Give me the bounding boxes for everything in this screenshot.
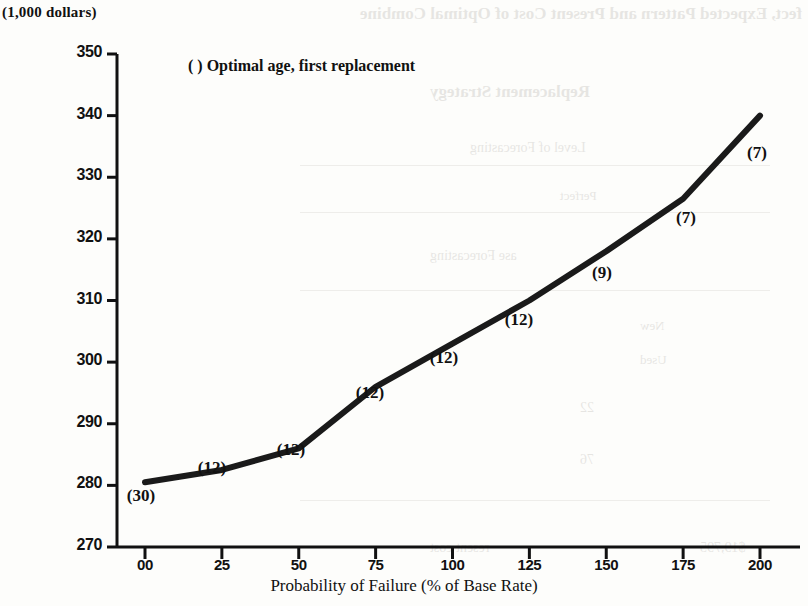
x-tick-label: 50: [269, 556, 329, 573]
point-annotation: (12): [342, 383, 398, 403]
x-tick-label: 00: [115, 556, 175, 573]
y-tick-label: 320: [40, 228, 102, 246]
point-annotation: (7): [658, 208, 714, 228]
y-tick-label: 300: [40, 351, 102, 369]
x-tick-label: 200: [730, 556, 790, 573]
line-chart-plot: [0, 0, 808, 606]
x-axis-title: Probability of Failure (% of Base Rate): [0, 576, 808, 596]
point-annotation: (30): [113, 486, 169, 506]
point-annotation: (12): [184, 458, 240, 478]
y-tick-label: 310: [40, 290, 102, 308]
y-tick-label: 270: [40, 536, 102, 554]
point-annotation: (7): [729, 143, 785, 163]
point-annotation: (9): [574, 263, 630, 283]
y-tick-label: 340: [40, 105, 102, 123]
x-tick-label: 100: [423, 556, 483, 573]
y-tick-label: 290: [40, 413, 102, 431]
x-tick-label: 125: [499, 556, 559, 573]
x-tick-label: 25: [192, 556, 252, 573]
y-tick-label: 330: [40, 166, 102, 184]
point-annotation: (12): [491, 310, 547, 330]
x-tick-label: 75: [346, 556, 406, 573]
y-tick-label: 350: [40, 43, 102, 61]
y-tick-label: 280: [40, 474, 102, 492]
x-tick-label: 150: [576, 556, 636, 573]
point-annotation: (12): [416, 348, 472, 368]
data-series-line: [145, 116, 760, 483]
x-tick-label: 175: [653, 556, 713, 573]
point-annotation: (12): [263, 440, 319, 460]
